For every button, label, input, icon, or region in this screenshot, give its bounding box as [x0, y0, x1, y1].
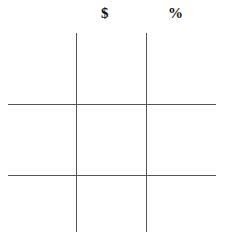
column-header-dollar: $	[101, 5, 109, 22]
column-header-percent: %	[168, 5, 183, 22]
vertical-divider-2	[146, 33, 147, 232]
vertical-divider-1	[76, 33, 77, 232]
horizontal-divider-1	[8, 104, 216, 105]
horizontal-divider-2	[8, 175, 216, 176]
